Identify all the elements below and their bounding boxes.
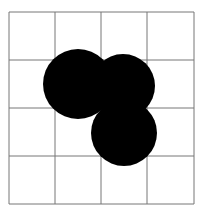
grid-figure — [0, 0, 203, 214]
circle-3 — [91, 100, 157, 166]
circles-group — [43, 49, 157, 166]
